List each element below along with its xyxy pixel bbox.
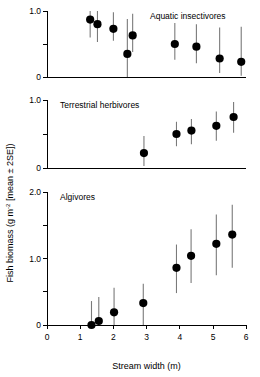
- data-point: [212, 122, 220, 130]
- data-point: [192, 43, 200, 51]
- data-point: [216, 54, 224, 62]
- data-point: [86, 15, 94, 23]
- data-point: [140, 149, 148, 157]
- panel-title-3: Algivores: [60, 192, 95, 202]
- panel-3: 01.02.00123456Algivores: [29, 187, 249, 342]
- x-tick-label: 1: [78, 332, 83, 342]
- y-tick-label: 0: [36, 72, 41, 82]
- data-point: [212, 240, 220, 248]
- data-point: [171, 40, 179, 48]
- y-axis-title-tail: [mean ± 2SE]): [5, 144, 15, 204]
- data-point: [187, 252, 195, 260]
- panel-title-1: Aquatic insectivores: [150, 11, 226, 21]
- y-axis-title: Fish biomass (g m-2 [mean ± 2SE]): [5, 144, 15, 283]
- y-tick-label: 1.0: [29, 95, 41, 105]
- x-tick-label: 5: [211, 332, 216, 342]
- data-point: [95, 317, 103, 325]
- x-axis-title: Stream width (m): [112, 361, 181, 371]
- y-tick-label: 0: [36, 163, 41, 173]
- data-point: [109, 25, 117, 33]
- y-tick-label: 1.0: [29, 254, 41, 264]
- data-point: [129, 31, 137, 39]
- y-tick-label: 1.0: [29, 6, 41, 16]
- data-point: [139, 299, 147, 307]
- data-point: [237, 58, 245, 66]
- x-tick-label: 4: [177, 332, 182, 342]
- figure-container: 01.0Aquatic insectivores01.0Terrestrial …: [0, 0, 260, 377]
- y-tick-label: 0: [36, 320, 41, 330]
- x-tick-label: 6: [244, 332, 249, 342]
- data-point: [228, 230, 236, 238]
- y-axis-title-main: Fish biomass (g m: [5, 209, 15, 283]
- x-tick-label: 0: [45, 332, 50, 342]
- y-tick-label: 2.0: [29, 187, 41, 197]
- data-point: [123, 50, 131, 58]
- x-tick-label: 2: [111, 332, 116, 342]
- data-point: [110, 308, 118, 316]
- multi-panel-scatter-chart: 01.0Aquatic insectivores01.0Terrestrial …: [0, 0, 260, 377]
- data-point: [172, 130, 180, 138]
- data-point: [93, 20, 101, 28]
- data-point: [87, 321, 95, 329]
- data-point: [172, 264, 180, 272]
- panel-1: 01.0Aquatic insectivores: [29, 6, 246, 82]
- data-point: [229, 113, 237, 121]
- panel-2: 01.0Terrestrial herbivores: [29, 95, 246, 173]
- panel-title-2: Terrestrial herbivores: [60, 100, 139, 110]
- x-tick-label: 3: [144, 332, 149, 342]
- data-point: [187, 127, 195, 135]
